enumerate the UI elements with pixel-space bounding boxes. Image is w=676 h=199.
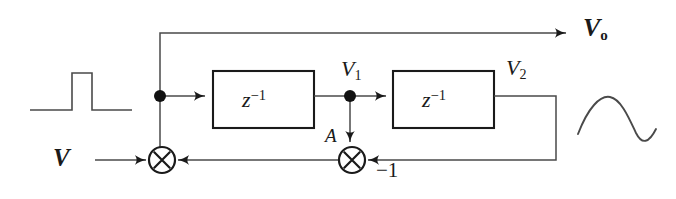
input-pulse-waveform [30,73,132,110]
label-input-v: V [53,145,70,170]
summing-junction-feedback [339,147,365,173]
output-sine-waveform [578,97,656,141]
label-tap-a: A [325,126,337,145]
label-delay2: z−1 [422,88,446,111]
label-delay2-superscript: −1 [431,87,446,103]
label-node-v2-subscript: 2 [519,66,526,82]
label-node-v1-subscript: 1 [354,67,361,83]
label-output-vo: Vo [583,15,608,43]
label-gain-minus-one: −1 [376,160,398,181]
label-node-v1: V1 [341,58,362,82]
diagram-canvas: Vo V V1 V2 z−1 z−1 A −1 [0,0,676,199]
signal-flow-graph [0,0,676,199]
summing-junction-input [149,147,175,173]
label-delay1: z−1 [242,88,266,111]
label-output-vo-subscript: o [600,27,608,43]
branch-node-1 [154,90,166,102]
label-delay1-superscript: −1 [251,87,266,103]
branch-node-2 [344,90,356,102]
label-node-v2: V2 [506,57,527,81]
